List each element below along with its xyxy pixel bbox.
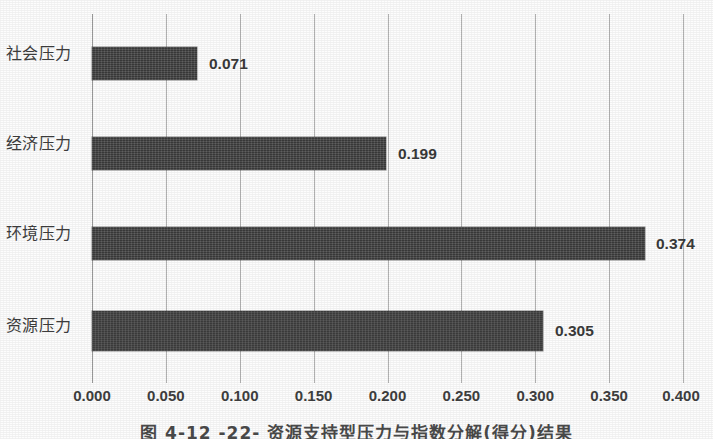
xtick-label-1: 0.050: [134, 387, 198, 404]
xtick-label-4: 0.200: [356, 387, 420, 404]
bar-band-2: 0.374: [92, 194, 683, 284]
xtick-label-7: 0.350: [577, 387, 641, 404]
bar-0[interactable]: [92, 47, 197, 80]
bar-value-label-0: 0.071: [209, 47, 248, 80]
xtick-label-3: 0.150: [282, 387, 346, 404]
bar-band-1: 0.199: [92, 104, 683, 194]
bar-1[interactable]: [92, 137, 386, 170]
xtick-label-6: 0.300: [503, 387, 567, 404]
bar-2[interactable]: [92, 227, 645, 260]
bar-chart: 社会压力 经济压力 环境压力 资源压力 0.071 0.199: [0, 0, 713, 395]
bar-band-0: 0.071: [92, 14, 683, 104]
xtick-label-2: 0.100: [208, 387, 272, 404]
bar-value-label-1: 0.199: [398, 137, 437, 170]
figure-container: 社会压力 经济压力 环境压力 资源压力 0.071 0.199: [0, 0, 713, 439]
bar-value-label-3: 0.305: [555, 311, 594, 351]
bar-value-label-2: 0.374: [656, 227, 695, 260]
category-label-1: 经济压力: [6, 130, 86, 154]
xtick-label-0: 0.000: [60, 387, 124, 404]
bar-3[interactable]: [92, 311, 543, 351]
figure-caption-clip: 图 4-12 -22- 资源支持型压力与指数分解(得分)结果: [0, 423, 713, 439]
category-label-0: 社会压力: [6, 40, 86, 64]
plot-area: 0.071 0.199 0.374 0.305: [92, 14, 683, 383]
xtick-label-5: 0.250: [429, 387, 493, 404]
gridline-0-400: [683, 14, 684, 383]
figure-caption: 图 4-12 -22- 资源支持型压力与指数分解(得分)结果: [0, 423, 713, 439]
bar-band-3: 0.305: [92, 284, 683, 374]
category-label-3: 资源压力: [6, 312, 86, 336]
xtick-label-8: 0.400: [649, 387, 713, 404]
category-label-2: 环境压力: [6, 220, 86, 244]
